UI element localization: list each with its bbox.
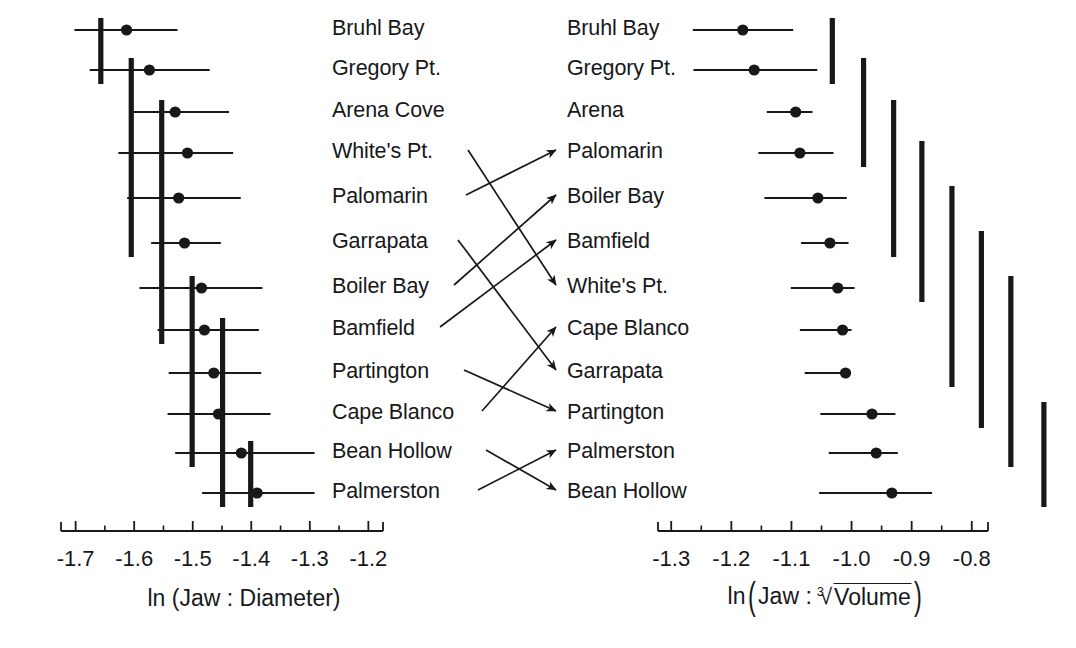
right-panel-row-label: Bruhl Bay [567, 18, 659, 40]
mean-marker [871, 447, 882, 458]
cube-root-icon: 3√Volume [812, 583, 912, 610]
left-panel-row-label: Gregory Pt. [332, 58, 441, 80]
mean-marker [144, 64, 155, 75]
left-panel-row-label: White's Pt. [332, 141, 433, 163]
left-axis-tick-label: -1.6 [115, 546, 153, 572]
site-connector-arrow [454, 195, 556, 285]
left-panel-row-label: Boiler Bay [332, 276, 429, 298]
right-panel-row-label: Palomarin [567, 141, 663, 163]
right-panel-group-bars [832, 18, 1044, 507]
mean-marker [182, 147, 193, 158]
mean-marker [179, 237, 190, 248]
mean-marker [824, 237, 835, 248]
left-panel-row-label: Palmerston [332, 481, 440, 503]
left-panel-axis [61, 521, 383, 531]
right-panel-row-label: Bean Hollow [567, 481, 687, 503]
right-axis-tick-label: -1.1 [772, 546, 810, 572]
mean-marker [832, 282, 843, 293]
site-connector-arrow [466, 150, 556, 195]
right-panel-row-label: Palmerston [567, 441, 675, 463]
site-connector-arrow [458, 240, 556, 370]
left-panel-row-label: Partington [332, 361, 429, 383]
left-axis-tick-label: -1.7 [57, 546, 95, 572]
site-connector-arrow [468, 150, 556, 285]
mean-marker [749, 64, 760, 75]
right-axis-tick-label: -0.9 [893, 546, 931, 572]
left-axis-tick-label: -1.2 [349, 546, 387, 572]
right-panel-row-label: Bamfield [567, 231, 650, 253]
right-axis-tick-label: -1.2 [712, 546, 750, 572]
right-panel-intervals [693, 30, 932, 493]
right-panel-row-label: Arena [567, 100, 624, 122]
mean-marker [794, 147, 805, 158]
right-panel-row-label: Gregory Pt. [567, 58, 676, 80]
right-panel-means [737, 24, 897, 498]
left-axis-tick-label: -1.4 [232, 546, 270, 572]
mean-marker [208, 367, 219, 378]
right-axis-tick-label: -1.0 [833, 546, 871, 572]
figure-root: Bruhl BayGregory Pt.Arena CoveWhite's Pt… [0, 0, 1076, 648]
left-axis-title: ln (Jaw : Diameter) [148, 585, 341, 612]
ln-prefix: ln [728, 583, 746, 610]
mean-marker [790, 106, 801, 117]
mean-marker [170, 106, 181, 117]
left-axis-tick-label: -1.5 [174, 546, 212, 572]
right-panel-row-label: Partington [567, 402, 664, 424]
site-connector-arrow [482, 327, 556, 411]
mean-marker [837, 324, 848, 335]
right-panel-axis [658, 521, 988, 531]
right-axis-title: ln ( Jaw : 3√Volume ) [728, 581, 925, 612]
mean-marker [886, 487, 897, 498]
right-axis-tick-label: -1.3 [652, 546, 690, 572]
mean-marker [866, 408, 877, 419]
right-panel-row-label: White's Pt. [567, 276, 668, 298]
left-panel-row-label: Arena Cove [332, 100, 445, 122]
close-paren: ) [914, 581, 922, 612]
mean-marker [236, 447, 247, 458]
mean-marker [737, 24, 748, 35]
left-panel-row-label: Cape Blanco [332, 402, 454, 424]
right-panel-row-label: Garrapata [567, 361, 663, 383]
mean-marker [121, 24, 132, 35]
mean-marker [173, 192, 184, 203]
mean-marker [840, 367, 851, 378]
left-panel-group-bars [101, 18, 251, 507]
left-panel-row-label: Bruhl Bay [332, 18, 424, 40]
mean-marker [199, 324, 210, 335]
right-panel-row-label: Cape Blanco [567, 318, 689, 340]
site-connector-arrow [440, 240, 556, 327]
mean-marker [252, 487, 263, 498]
right-panel-row-label: Boiler Bay [567, 186, 664, 208]
radicand: Volume [833, 583, 912, 610]
open-paren: ( [748, 581, 756, 612]
site-connectors [440, 150, 556, 490]
left-axis-tick-label: -1.3 [291, 546, 329, 572]
inner-lead: Jaw : [758, 583, 812, 610]
radical-sign: √ [820, 584, 832, 609]
left-panel-row-label: Palomarin [332, 186, 428, 208]
left-panel-row-label: Bean Hollow [332, 441, 452, 463]
mean-marker [213, 408, 224, 419]
mean-marker [196, 282, 207, 293]
right-axis-title-expression: ln ( Jaw : 3√Volume ) [728, 581, 925, 612]
left-panel-row-label: Bamfield [332, 318, 415, 340]
site-connector-arrow [464, 370, 556, 411]
right-axis-tick-label: -0.8 [953, 546, 991, 572]
mean-marker [812, 192, 823, 203]
left-panel-row-label: Garrapata [332, 231, 428, 253]
